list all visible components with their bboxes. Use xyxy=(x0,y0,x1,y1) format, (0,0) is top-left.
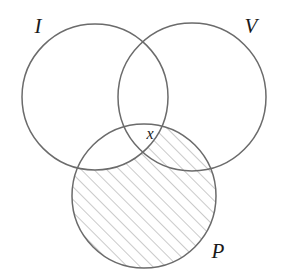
venn-diagram-canvas: I V P x xyxy=(0,0,287,280)
set-label-p: P xyxy=(211,239,225,263)
set-label-v: V xyxy=(245,14,260,38)
venn-diagram-figure: I V P x xyxy=(0,0,287,280)
region-label-x: x xyxy=(145,125,153,142)
set-label-i: I xyxy=(34,14,43,38)
